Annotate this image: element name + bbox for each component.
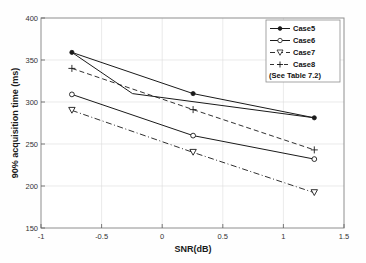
x-tick-label-0: 0 bbox=[160, 232, 164, 241]
y-axis-label: 90% acquisition time (ms) bbox=[10, 68, 20, 179]
legend-label-case5: Case5 bbox=[293, 24, 315, 33]
x-tick-label--1: -1 bbox=[38, 232, 45, 241]
figure-canvas: 400 350 300 250 200 150 -1 -0.5 0 0.5 1 … bbox=[0, 0, 366, 263]
y-tick-label-200: 200 bbox=[25, 182, 38, 191]
legend-marker-case6 bbox=[278, 38, 282, 42]
legend-label-case8: Case8 bbox=[293, 60, 315, 69]
series-case5-marker bbox=[191, 92, 195, 96]
series-case6-marker bbox=[312, 157, 317, 162]
y-tick-label-350: 350 bbox=[25, 56, 38, 65]
series-case6-marker bbox=[70, 92, 75, 97]
series-case5-marker bbox=[312, 116, 316, 120]
y-tick-label-300: 300 bbox=[25, 98, 38, 107]
series-case5-marker bbox=[70, 50, 74, 54]
legend-marker-case5 bbox=[278, 27, 282, 31]
x-tick-label--0.5: -0.5 bbox=[95, 232, 108, 241]
x-axis-label: SNR(dB) bbox=[175, 244, 212, 254]
legend-table-note: (See Table 7.2) bbox=[269, 71, 321, 80]
y-tick-label-150: 150 bbox=[25, 224, 38, 233]
x-tick-label-1.5: 1.5 bbox=[339, 232, 349, 241]
legend-label-case6: Case6 bbox=[293, 36, 315, 45]
series-case6-marker bbox=[191, 133, 196, 138]
y-tick-label-400: 400 bbox=[25, 14, 38, 23]
x-tick-label-1: 1 bbox=[281, 232, 285, 241]
line-chart: 400 350 300 250 200 150 -1 -0.5 0 0.5 1 … bbox=[0, 0, 366, 263]
chart-legend[interactable]: Case5 Case6 Case7 Case8 bbox=[266, 20, 340, 82]
x-tick-label-0.5: 0.5 bbox=[218, 232, 228, 241]
legend-label-case7: Case7 bbox=[293, 48, 315, 57]
y-tick-label-250: 250 bbox=[25, 140, 38, 149]
